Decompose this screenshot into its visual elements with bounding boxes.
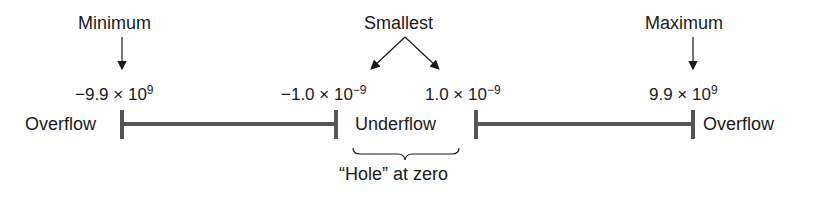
smallest-label: Smallest — [364, 14, 433, 32]
hole-at-zero-label: “Hole” at zero — [339, 165, 448, 183]
left-overflow-label: Overflow — [25, 115, 96, 133]
hole-brace — [353, 148, 459, 160]
smallest-arrow-left — [372, 37, 405, 68]
underflow-label: Underflow — [355, 115, 436, 133]
negative-range-bar — [122, 110, 336, 139]
pos-smallest-value: 1.0 × 10−9 — [425, 86, 501, 103]
positive-range-bar — [476, 110, 693, 139]
smallest-arrow-right — [405, 37, 438, 68]
maximum-label: Maximum — [645, 14, 723, 32]
max-value: 9.9 × 109 — [649, 86, 718, 103]
min-value: −9.9 × 109 — [75, 86, 154, 103]
neg-smallest-value: −1.0 × 10−9 — [281, 86, 367, 103]
minimum-label: Minimum — [78, 14, 151, 32]
right-overflow-label: Overflow — [703, 115, 774, 133]
